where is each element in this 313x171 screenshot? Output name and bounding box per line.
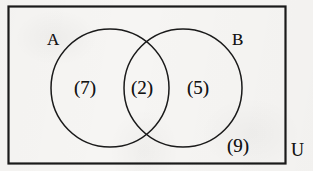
venn-diagram-canvas (0, 0, 313, 171)
count-intersection: (2) (131, 78, 153, 97)
count-a-only: (7) (74, 78, 96, 97)
count-b-only: (5) (187, 78, 209, 97)
set-b-label: B (232, 31, 243, 48)
set-a-label: A (47, 31, 59, 48)
count-outside-sets: (9) (227, 136, 249, 155)
venn-diagram-figure: A B U (7) (2) (5) (9) (0, 0, 313, 171)
universe-label: U (291, 141, 304, 159)
